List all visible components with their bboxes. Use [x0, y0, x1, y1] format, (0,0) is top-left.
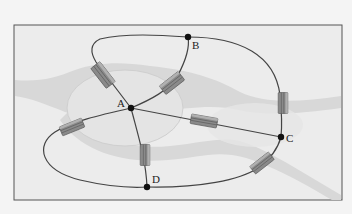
bridge-icon — [140, 145, 150, 166]
bridge-icon — [278, 93, 288, 114]
node-label-b: B — [192, 40, 199, 51]
node-label-a: A — [117, 98, 125, 109]
node-b — [185, 34, 191, 40]
node-a — [128, 105, 134, 111]
node-label-d: D — [152, 174, 160, 185]
node-d — [144, 184, 150, 190]
diagram-canvas: A B C D — [0, 0, 352, 214]
konigsberg-diagram — [0, 0, 352, 214]
node-c — [278, 134, 284, 140]
node-label-c: C — [286, 133, 293, 144]
